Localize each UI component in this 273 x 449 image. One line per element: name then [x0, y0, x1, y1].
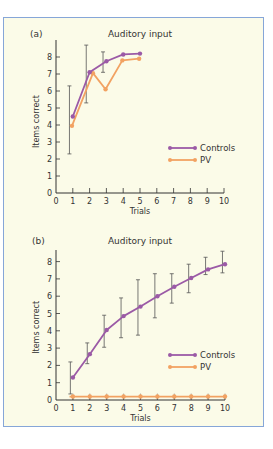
x-tick-label: 8: [189, 404, 194, 413]
data-point: [137, 57, 141, 61]
data-point: [206, 267, 210, 271]
data-point: [121, 52, 125, 56]
data-point: [104, 59, 108, 63]
data-point: [71, 375, 75, 379]
chart-panel-b: (b)Auditory input012345678012345678910Tr…: [32, 236, 236, 423]
y-tick-label: 8: [47, 258, 52, 267]
data-point: [71, 114, 75, 118]
data-point: [103, 87, 107, 91]
y-tick-label: 3: [47, 138, 52, 147]
x-tick-label: 7: [171, 197, 176, 206]
data-point: [223, 262, 227, 266]
data-point: [138, 304, 142, 308]
y-tick-label: 7: [47, 275, 52, 284]
data-point: [120, 58, 124, 62]
x-tick-label: 5: [137, 197, 142, 206]
data-point: [155, 394, 159, 398]
y-tick-label: 7: [47, 70, 52, 79]
x-tick-label: 10: [220, 404, 230, 413]
legend-label: PV: [200, 155, 211, 165]
chart-panel-a: (a)Auditory input012345678012345678910Tr…: [30, 29, 236, 216]
y-axis-label: Items correct: [32, 301, 41, 354]
y-tick-label: 2: [47, 361, 52, 370]
x-tick-label: 4: [121, 404, 126, 413]
data-point: [70, 124, 74, 128]
y-tick-label: 4: [47, 121, 52, 130]
legend-label: Controls: [200, 350, 236, 360]
data-point: [138, 394, 142, 398]
chart-title: Auditory input: [108, 236, 173, 246]
data-point: [206, 394, 210, 398]
y-tick-label: 6: [47, 292, 52, 301]
x-tick-label: 0: [53, 197, 58, 206]
x-tick-label: 1: [70, 404, 75, 413]
x-tick-label: 8: [188, 197, 193, 206]
series-controls: [71, 51, 143, 118]
x-tick-label: 2: [87, 404, 92, 413]
data-point: [105, 328, 109, 332]
x-tick-label: 3: [104, 404, 109, 413]
y-tick-label: 0: [47, 396, 52, 405]
panel-label: (a): [30, 29, 43, 39]
series-pv: [70, 394, 228, 400]
data-point: [88, 394, 92, 398]
y-axis-label: Items correct: [32, 95, 41, 148]
panel-label: (b): [32, 236, 45, 246]
x-tick-label: 10: [219, 197, 229, 206]
data-point: [121, 394, 125, 398]
data-point: [121, 314, 125, 318]
data-point: [87, 70, 91, 74]
x-tick-label: 9: [206, 404, 211, 413]
data-point: [189, 276, 193, 280]
x-axis-label: Trials: [129, 207, 151, 216]
y-tick-label: 4: [47, 327, 52, 336]
y-tick-label: 8: [47, 53, 52, 62]
x-tick-label: 2: [87, 197, 92, 206]
y-tick-label: 6: [47, 87, 52, 96]
data-point: [172, 394, 176, 398]
data-point: [155, 294, 159, 298]
axes: 012345678012345678910: [47, 250, 230, 413]
y-tick-label: 1: [47, 379, 52, 388]
y-tick-label: 0: [47, 189, 52, 198]
x-tick-label: 9: [205, 197, 210, 206]
x-tick-label: 4: [121, 197, 126, 206]
y-tick-label: 5: [47, 310, 52, 319]
x-tick-label: 3: [104, 197, 109, 206]
axes: 012345678012345678910: [47, 40, 229, 206]
data-point: [105, 394, 109, 398]
chart-title: Auditory input: [108, 29, 173, 39]
x-tick-label: 6: [155, 404, 160, 413]
y-tick-label: 1: [47, 172, 52, 181]
data-point: [88, 352, 92, 356]
legend-label: Controls: [200, 143, 236, 153]
figure-charts: (a)Auditory input012345678012345678910Tr…: [0, 0, 273, 449]
y-tick-label: 3: [47, 344, 52, 353]
data-point: [189, 394, 193, 398]
x-tick-label: 7: [172, 404, 177, 413]
data-point: [138, 51, 142, 55]
data-point: [71, 394, 75, 398]
legend-label: PV: [200, 362, 211, 372]
x-tick-label: 1: [70, 197, 75, 206]
x-tick-label: 0: [53, 404, 58, 413]
y-tick-label: 5: [47, 104, 52, 113]
error-bars: [67, 45, 105, 154]
series-pv: [70, 57, 142, 129]
data-point: [223, 394, 227, 398]
x-tick-label: 6: [154, 197, 159, 206]
data-point: [172, 284, 176, 288]
x-tick-label: 5: [138, 404, 143, 413]
y-tick-label: 2: [47, 155, 52, 164]
legend: ControlsPV: [168, 350, 236, 372]
x-axis-label: Trials: [129, 414, 151, 423]
legend: ControlsPV: [168, 143, 236, 165]
